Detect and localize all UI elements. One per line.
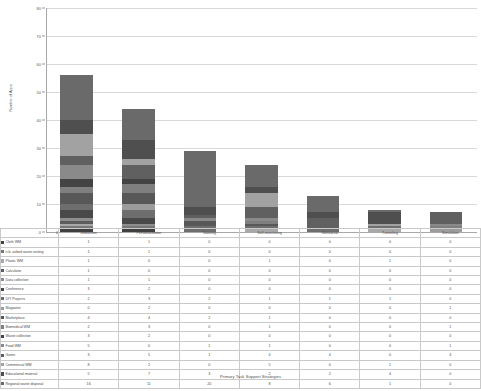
table-cell-value: 0 xyxy=(179,332,239,341)
table-column-header: Rehearsal xyxy=(300,229,360,238)
y-axis-tick-mark xyxy=(42,36,45,37)
table-cell-value: 5 xyxy=(119,351,179,360)
table-cell-value: 0 xyxy=(300,247,360,256)
stacked-bar-chart-with-table: Number of Apps 01020304050607080 0 Reduc… xyxy=(0,0,481,391)
y-axis-tick-label: 60 xyxy=(37,62,41,67)
table-cell-value: 0 xyxy=(360,304,420,313)
bar-segment xyxy=(122,140,155,160)
table-cell-value: 2 xyxy=(119,360,179,369)
table-row: Biomedical WM2301001 xyxy=(1,323,481,332)
table-cell-value: 1 xyxy=(239,341,299,350)
legend-row-label: DIY Projects xyxy=(1,294,59,303)
table-cell-value: 0 xyxy=(179,304,239,313)
y-axis-tick-label: 30 xyxy=(37,146,41,151)
data-table: 0 ReductionPersonalizationTailoringSelf-… xyxy=(0,228,481,373)
table-cell-value: 16 xyxy=(59,379,119,388)
legend-series-name: Regional waste disposal xyxy=(6,382,44,386)
legend-color-swatch xyxy=(1,382,4,385)
table-cell-value: 2 xyxy=(179,294,239,303)
bar-segment xyxy=(122,109,155,140)
table-column-header: Reduction xyxy=(59,229,119,238)
table-cell-value: 0 xyxy=(119,341,179,350)
table-cell-value: 1 xyxy=(119,238,179,247)
x-axis-title-text: Primary Task Support Strategies xyxy=(200,374,281,379)
table-column-header: Personalization xyxy=(119,229,179,238)
table-cell-value: 4 xyxy=(119,313,179,322)
y-axis-tick-label: 50 xyxy=(37,90,41,95)
table-cell-value: 0 xyxy=(179,285,239,294)
table-cell-value: 0 xyxy=(360,276,420,285)
table-cell-value: 0 xyxy=(360,285,420,294)
bar-column xyxy=(235,0,288,232)
table-cell-value: 3 xyxy=(119,323,179,332)
table-cell-value: 0 xyxy=(360,341,420,350)
legend-color-swatch xyxy=(1,344,4,347)
bar-segment xyxy=(184,151,217,207)
bar-segment xyxy=(60,210,93,218)
legend-color-swatch xyxy=(1,259,4,262)
table-cell-value: 0 xyxy=(360,313,420,322)
table-cell-value: 1 xyxy=(239,257,299,266)
table-row: Plastic WM1001010 xyxy=(1,257,481,266)
table-cell-value: 0 xyxy=(360,351,420,360)
legend-color-swatch xyxy=(1,278,4,281)
bar-segment xyxy=(60,75,93,120)
table-cell-value: 0 xyxy=(300,332,360,341)
legend-color-swatch xyxy=(1,250,4,253)
legend-row-label: Regional waste disposal xyxy=(1,379,59,388)
table-cell-value: 4 xyxy=(300,351,360,360)
x-axis-title: Primary Task Support Strategies xyxy=(0,374,481,379)
table-cell-value: 1 xyxy=(360,257,420,266)
table-cell-value: 5 xyxy=(239,360,299,369)
legend-color-swatch xyxy=(1,335,4,338)
legend-row-label: Calculator xyxy=(1,266,59,275)
bar-segment xyxy=(245,207,278,218)
y-axis-ticks: 01020304050607080 xyxy=(0,0,46,232)
table-row: n.b. airbed waste sorting1100000 xyxy=(1,247,481,256)
table-cell-value: 0 xyxy=(300,238,360,247)
bar-segment xyxy=(122,193,155,204)
table-row: Waste collection3200000 xyxy=(1,332,481,341)
table-cell-value: 0 xyxy=(59,304,119,313)
table-cell-value: 1 xyxy=(420,304,480,313)
table-cell-value: 0 xyxy=(420,379,480,388)
table-cell-value: 0 xyxy=(360,266,420,275)
legend-series-name: Biomedical WM xyxy=(6,325,30,329)
bar-segment xyxy=(60,165,93,179)
bars-layer xyxy=(46,0,477,232)
y-axis-tick-mark xyxy=(42,176,45,177)
legend-series-name: Plastic WM xyxy=(6,259,23,263)
table-cell-value: 8 xyxy=(59,360,119,369)
table-cell-value: 4 xyxy=(239,351,299,360)
table-cell-value: 0 xyxy=(420,266,480,275)
table-cell-value: 2 xyxy=(119,332,179,341)
legend-color-swatch xyxy=(1,307,4,310)
bar-column xyxy=(112,0,165,232)
table-cell-value: 1 xyxy=(239,323,299,332)
table-cell-value: 0 xyxy=(119,266,179,275)
legend-series-name: Food WM xyxy=(6,344,21,348)
y-axis-tick-label: 20 xyxy=(37,174,41,179)
table-cell-value: 0 xyxy=(300,257,360,266)
legend-series-name: Data collection xyxy=(6,278,29,282)
table-cell-value: 4 xyxy=(59,313,119,322)
legend-row-label: Marketplace xyxy=(1,313,59,322)
plot-area: Number of Apps 01020304050607080 xyxy=(0,0,481,232)
table-cell-value: 1 xyxy=(360,360,420,369)
table-column-header: Self-monitoring xyxy=(239,229,299,238)
table-cell-value: 4 xyxy=(420,351,480,360)
table-cell-value: 0 xyxy=(239,276,299,285)
y-axis-tick-mark xyxy=(42,8,45,9)
legend-row-label: Conference xyxy=(1,285,59,294)
table-cell-value: 1 xyxy=(360,379,420,388)
table-cell-value: 20 xyxy=(179,379,239,388)
table-cell-value: 0 xyxy=(239,266,299,275)
table-row: Marketplace4421000 xyxy=(1,313,481,322)
table-cell-value: 0 xyxy=(300,313,360,322)
table-cell-value: 1 xyxy=(59,257,119,266)
table-cell-value: 3 xyxy=(59,351,119,360)
y-axis-tick-mark xyxy=(42,148,45,149)
table-cell-value: 6 xyxy=(300,379,360,388)
legend-series-name: Calculator xyxy=(6,269,22,273)
bar-segment xyxy=(122,165,155,179)
